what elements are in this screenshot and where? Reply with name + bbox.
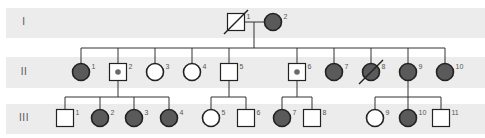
sibship-lines [65,81,169,110]
female-symbol [400,110,417,127]
male-symbol [238,110,255,127]
individual-III-4: 4 [161,109,184,127]
individual-II-4: 4 [184,63,207,81]
individual-number: 7 [345,63,349,70]
female-symbol [274,110,291,127]
individual-III-9: 9 [367,109,390,127]
male-symbol [57,110,74,127]
male-symbol [221,64,238,81]
individual-number: 11 [452,109,459,116]
individual-number: 5 [240,63,244,70]
individual-II-2: 2 [110,63,133,81]
sibship-lines [375,81,441,110]
individual-II-5: 5 [221,63,244,81]
individual-number: 2 [129,63,133,70]
individual-number: 1 [92,63,96,70]
individual-II-1: 1 [73,63,96,81]
female-symbol [73,64,90,81]
female-symbol [326,64,343,81]
individual-number: 7 [293,109,297,116]
individual-number: 1 [76,109,80,116]
individual-III-3: 3 [126,109,149,127]
female-symbol [367,110,384,127]
individual-number: 3 [166,63,170,70]
carrier-dot-icon [115,69,121,75]
individual-II-7: 7 [326,63,349,81]
individual-number: 10 [456,63,464,70]
male-symbol [433,110,450,127]
individual-II-3: 3 [147,63,170,81]
sibship-lines [211,81,246,110]
female-symbol [437,64,454,81]
sibship-lines [282,81,312,110]
individual-number: 10 [419,109,427,116]
individual-number: 9 [386,109,390,116]
individual-number: 4 [180,109,184,116]
female-symbol [400,64,417,81]
individual-number: 6 [308,63,312,70]
individual-I-2: 2 [265,13,288,31]
sibship-lines [81,22,445,64]
female-symbol [147,64,164,81]
individual-number: 3 [145,109,149,116]
male-symbol [304,110,321,127]
individual-II-10: 10 [437,63,464,81]
individual-III-8: 8 [304,109,327,127]
pedigree-diagram: 12123456789101234567891011 [0,0,485,138]
female-symbol [92,110,109,127]
individual-III-11: 11 [433,109,459,127]
individual-number: 8 [382,63,386,70]
individual-number: 4 [203,63,207,70]
individual-II-8: 8 [359,60,386,84]
individual-number: 8 [323,109,327,116]
individual-III-1: 1 [57,109,80,127]
individual-number: 1 [247,13,251,20]
female-symbol [126,110,143,127]
female-symbol [184,64,201,81]
individual-number: 5 [222,109,226,116]
individual-III-10: 10 [400,109,427,127]
individual-number: 6 [257,109,261,116]
female-symbol [161,110,178,127]
individual-II-6: 6 [289,63,312,81]
individual-number: 2 [111,109,115,116]
individual-III-2: 2 [92,109,115,127]
individual-III-5: 5 [203,109,226,127]
female-symbol [203,110,220,127]
individual-II-9: 9 [400,63,423,81]
female-symbol [265,14,282,31]
carrier-dot-icon [294,69,300,75]
individual-number: 9 [419,63,423,70]
individual-III-7: 7 [274,109,297,127]
individual-number: 2 [284,13,288,20]
individual-III-6: 6 [238,109,261,127]
